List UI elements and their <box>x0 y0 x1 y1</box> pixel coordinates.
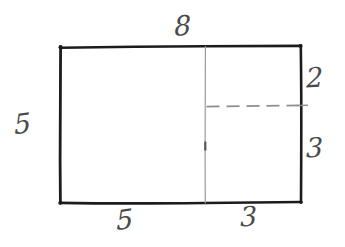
rectangle-top-edge <box>61 46 301 48</box>
corner-dot-top-left <box>59 45 63 49</box>
dashed-horizontal-divider <box>207 105 304 106</box>
rectangle-left-edge <box>60 47 61 203</box>
dimension-label-right-lower: 3 <box>306 134 323 162</box>
dimension-label-bottom-right: 3 <box>240 202 258 230</box>
dimension-label-top-width: 8 <box>174 11 192 40</box>
dimension-label-bottom-left: 5 <box>116 205 134 234</box>
corner-dot-bottom-right <box>299 201 302 204</box>
dimension-label-right-upper: 2 <box>306 63 324 91</box>
dimension-label-left-height: 5 <box>13 109 31 138</box>
corner-dot-bottom-left <box>59 201 63 205</box>
rectangle-bottom-edge <box>60 202 302 203</box>
corner-dot-top-right <box>299 44 303 48</box>
sketch-canvas: 8 5 2 3 5 3 <box>0 0 345 247</box>
geometry-diagram <box>0 0 345 247</box>
